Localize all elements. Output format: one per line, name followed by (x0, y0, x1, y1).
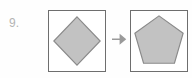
shape-panel-before[interactable] (48, 10, 106, 72)
shape-panel-after[interactable] (130, 10, 188, 72)
diamond-icon (49, 11, 105, 71)
arrow-right-icon (110, 32, 128, 46)
pentagon-icon (131, 11, 187, 71)
item-number-label: 9. (9, 17, 19, 29)
shape-transformation-item: 9. (0, 0, 192, 78)
